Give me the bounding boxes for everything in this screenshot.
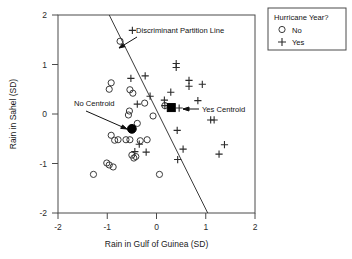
y-ticklabel-neg1: -1 <box>39 159 47 169</box>
x-ticklabel-neg1: -1 <box>103 222 111 232</box>
y-ticklabel-neg2: -2 <box>39 208 47 218</box>
x-ticklabel-0: 0 <box>154 222 159 232</box>
x-ticklabel-neg2: -2 <box>54 222 62 232</box>
plot-frame <box>58 15 255 213</box>
x-axis: -2 -1 0 1 2 Rain in Gulf of Guinea (SD) <box>54 213 257 249</box>
y-axis-title: Rain in Sahel (SD) <box>8 79 18 150</box>
no-centroid-marker <box>127 124 136 133</box>
x-ticklabel-1: 1 <box>203 222 208 232</box>
x-ticklabel-2: 2 <box>253 222 258 232</box>
legend: Hurricane Year? No Yes <box>268 8 346 50</box>
legend-label-no: No <box>292 26 302 35</box>
no-centroid-label: No Centroid <box>74 99 115 108</box>
y-ticklabel-0: 0 <box>42 109 47 119</box>
chart-canvas: 2 1 0 -1 -2 Rain in Sahel (SD) -2 -1 0 1… <box>0 0 352 259</box>
partition-line-label: Discriminant Partition Line <box>136 26 224 35</box>
legend-label-yes: Yes <box>292 38 305 47</box>
y-axis: 2 1 0 -1 -2 Rain in Sahel (SD) <box>8 10 58 218</box>
plot-area-border <box>58 15 255 213</box>
scatter-plot-figure: 2 1 0 -1 -2 Rain in Sahel (SD) -2 -1 0 1… <box>0 0 352 259</box>
y-ticklabel-1: 1 <box>42 60 47 70</box>
legend-title: Hurricane Year? <box>274 13 328 22</box>
y-ticklabel-2: 2 <box>42 10 47 20</box>
x-axis-title: Rain in Gulf of Guinea (SD) <box>105 239 209 249</box>
yes-centroid-marker <box>167 104 175 112</box>
yes-centroid-label: Yes Centroid <box>202 105 245 114</box>
